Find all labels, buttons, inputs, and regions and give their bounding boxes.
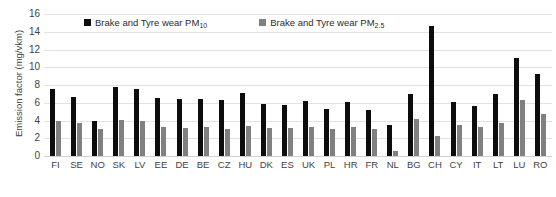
bar-ch-pm25[interactable]: [435, 136, 440, 156]
x-axis-tick-label: LT: [488, 160, 509, 180]
bar-group: [319, 14, 340, 156]
bar-nl-pm25[interactable]: [393, 151, 398, 156]
bar-group: [277, 14, 298, 156]
y-axis-tick-label: 8: [18, 80, 40, 90]
x-axis-tick-label: FI: [45, 160, 66, 180]
bar-cy-pm10[interactable]: [451, 102, 456, 156]
legend-swatch-icon-pm25: [259, 19, 266, 26]
bar-bg-pm25[interactable]: [414, 119, 419, 156]
bar-group: [509, 14, 530, 156]
bar-dk-pm10[interactable]: [261, 104, 266, 156]
plot-area: [44, 14, 552, 156]
bar-group: [361, 14, 382, 156]
bar-sk-pm10[interactable]: [113, 87, 118, 156]
y-axis-tick-label: 12: [18, 45, 40, 55]
bar-de-pm25[interactable]: [183, 128, 188, 156]
bar-de-pm10[interactable]: [177, 99, 182, 156]
bar-dk-pm25[interactable]: [267, 128, 272, 156]
bar-se-pm10[interactable]: [71, 97, 76, 156]
bar-fr-pm10[interactable]: [366, 110, 371, 156]
bar-no-pm25[interactable]: [98, 129, 103, 156]
bar-be-pm25[interactable]: [204, 127, 209, 156]
y-axis-tick-label: 10: [18, 62, 40, 72]
bar-sk-pm25[interactable]: [119, 120, 124, 156]
bar-group: [445, 14, 466, 156]
x-axis-tick-label: HR: [340, 160, 361, 180]
x-axis-tick-label: HU: [235, 160, 256, 180]
legend-entry-pm25[interactable]: Brake and Tyre wear PM2.5: [259, 18, 384, 28]
x-axis-tick-label: SE: [66, 160, 87, 180]
bar-lu-pm25[interactable]: [520, 100, 525, 156]
bar-fr-pm25[interactable]: [372, 129, 377, 156]
y-axis-tick-label: 0: [18, 151, 40, 161]
bar-uk-pm25[interactable]: [309, 127, 314, 156]
bar-nl-pm10[interactable]: [387, 125, 392, 156]
bar-se-pm25[interactable]: [77, 123, 82, 156]
x-axis-tick-label: PL: [319, 160, 340, 180]
bar-es-pm10[interactable]: [282, 105, 287, 156]
bar-group: [214, 14, 235, 156]
bar-ee-pm10[interactable]: [155, 98, 160, 156]
bar-pl-pm25[interactable]: [330, 129, 335, 156]
bar-group: [403, 14, 424, 156]
bar-group: [108, 14, 129, 156]
bar-lt-pm10[interactable]: [493, 94, 498, 156]
y-axis-tick-label: 6: [18, 98, 40, 108]
bar-no-pm10[interactable]: [92, 121, 97, 157]
bar-it-pm10[interactable]: [472, 106, 477, 156]
bar-hu-pm10[interactable]: [240, 93, 245, 156]
bar-ch-pm10[interactable]: [429, 26, 434, 156]
x-axis-tick-label: FR: [361, 160, 382, 180]
bar-hr-pm10[interactable]: [345, 102, 350, 156]
x-axis-tick-label: DE: [171, 160, 192, 180]
legend-entry-pm10[interactable]: Brake and Tyre wear PM10: [84, 18, 207, 28]
bar-pl-pm10[interactable]: [324, 109, 329, 156]
bar-group: [193, 14, 214, 156]
bar-lv-pm10[interactable]: [134, 89, 139, 156]
bar-ro-pm10[interactable]: [535, 74, 540, 156]
x-axis-tick-label: SK: [108, 160, 129, 180]
bar-uk-pm10[interactable]: [303, 101, 308, 156]
bar-group: [382, 14, 403, 156]
bar-fi-pm25[interactable]: [56, 121, 61, 157]
bar-ee-pm25[interactable]: [161, 127, 166, 156]
x-axis-tick-label: CZ: [214, 160, 235, 180]
bar-lv-pm25[interactable]: [140, 121, 145, 157]
x-axis-tick-label: BE: [193, 160, 214, 180]
bar-group: [171, 14, 192, 156]
chart-legend: Brake and Tyre wear PM10 Brake and Tyre …: [84, 18, 384, 28]
bar-ro-pm25[interactable]: [541, 114, 546, 156]
bar-group: [66, 14, 87, 156]
bar-es-pm25[interactable]: [288, 128, 293, 156]
x-axis-tick-label: DK: [256, 160, 277, 180]
x-axis-tick-label: IT: [467, 160, 488, 180]
x-axis-tick-label: EE: [150, 160, 171, 180]
x-axis-tick-label: CH: [424, 160, 445, 180]
x-axis-tick-label: RO: [530, 160, 551, 180]
bar-group: [340, 14, 361, 156]
y-axis-tick-label: 16: [18, 9, 40, 19]
bar-fi-pm10[interactable]: [50, 89, 55, 156]
bar-cz-pm25[interactable]: [225, 129, 230, 156]
bar-group: [298, 14, 319, 156]
bar-bg-pm10[interactable]: [408, 94, 413, 156]
bar-group: [129, 14, 150, 156]
bar-hu-pm25[interactable]: [246, 126, 251, 156]
bar-group: [256, 14, 277, 156]
bars-layer: [44, 14, 552, 156]
x-axis-tick-label: CY: [445, 160, 466, 180]
bar-cz-pm10[interactable]: [219, 100, 224, 156]
bar-hr-pm25[interactable]: [351, 127, 356, 156]
emission-factor-bar-chart: Emission factor (mg/vkm) 1614121086420 F…: [0, 0, 556, 197]
bar-group: [45, 14, 66, 156]
x-axis-tick-label: NL: [382, 160, 403, 180]
bar-be-pm10[interactable]: [198, 99, 203, 156]
bar-it-pm25[interactable]: [478, 127, 483, 156]
bar-cy-pm25[interactable]: [457, 125, 462, 156]
y-axis-tick-label: 2: [18, 133, 40, 143]
bar-lu-pm10[interactable]: [514, 58, 519, 156]
bar-lt-pm25[interactable]: [499, 123, 504, 156]
x-axis-tick-labels: FISENOSKLVEEDEBECZHUDKESUKPLHRFRNLBGCHCY…: [44, 160, 552, 180]
bar-group: [530, 14, 551, 156]
legend-label-pm10: Brake and Tyre wear PM10: [95, 18, 207, 28]
